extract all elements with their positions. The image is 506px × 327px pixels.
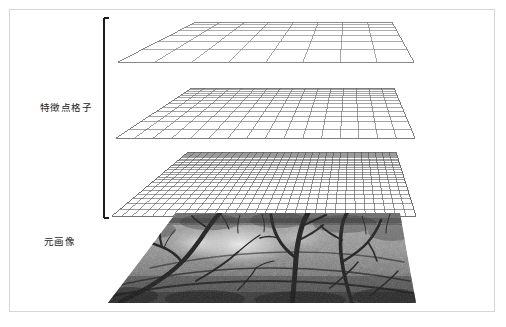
feature-point-grid-medium xyxy=(116,88,415,138)
figure-root: 特徴点格子 元画像 xyxy=(0,0,506,327)
feature-point-grid-fine xyxy=(112,152,416,216)
feature-grid-bracket xyxy=(104,18,109,218)
original-photograph xyxy=(98,208,425,309)
label-feature-point-grid: 特徴点格子 xyxy=(40,100,92,114)
feature-point-grid-coarse xyxy=(118,22,414,62)
label-original-image: 元画像 xyxy=(44,234,75,248)
diagram-canvas xyxy=(0,0,506,327)
